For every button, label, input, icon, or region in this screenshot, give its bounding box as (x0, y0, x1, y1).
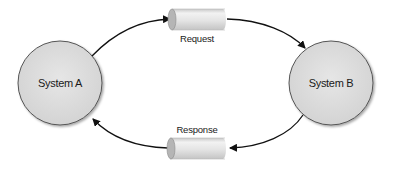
response-pipe-icon (167, 138, 226, 159)
arrow-response-to-a (93, 119, 168, 148)
request-response-diagram: System A System B Request Response (0, 0, 393, 169)
node-system-b: System B (289, 41, 373, 125)
request-label: Request (180, 33, 215, 44)
node-system-a: System A (18, 41, 102, 125)
request-pipe-icon (168, 9, 226, 30)
response-label: Response (176, 124, 217, 135)
system-a-label: System A (38, 77, 83, 89)
arrow-request-to-b (227, 19, 305, 48)
channel-request: Request (168, 9, 226, 44)
system-b-label: System B (309, 77, 354, 89)
arrow-b-to-response (230, 115, 303, 148)
channel-response: Response (167, 124, 226, 159)
arrow-a-to-request (92, 19, 170, 56)
